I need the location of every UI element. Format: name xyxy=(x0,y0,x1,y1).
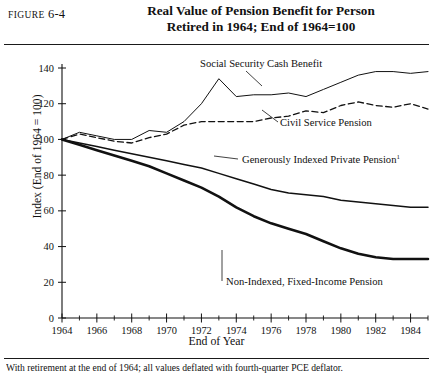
x-tick-label: 1982 xyxy=(365,325,386,336)
x-tick-label: 1964 xyxy=(52,325,74,336)
x-tick-label: 1974 xyxy=(226,325,248,336)
x-tick-label: 1972 xyxy=(191,325,212,336)
y-tick-label: 140 xyxy=(38,63,54,74)
annotation-leader-2 xyxy=(214,156,238,159)
series-line-2 xyxy=(62,139,428,207)
annotation-leader-1 xyxy=(262,110,278,122)
annotation-leader-0 xyxy=(246,71,262,86)
series-annotation-2: Generously Indexed Private Pension1 xyxy=(242,153,400,165)
y-tick-label: 0 xyxy=(49,313,54,324)
footer-divider xyxy=(4,358,429,359)
x-tick-label: 1968 xyxy=(121,325,142,336)
x-tick-label: 1978 xyxy=(296,325,317,336)
x-tick-label: 1966 xyxy=(86,325,107,336)
x-tick-label: 1984 xyxy=(400,325,422,336)
y-tick-label: 80 xyxy=(44,170,54,181)
series-annotation-0: Social Security Cash Benefit xyxy=(200,58,322,69)
figure-footnote: With retirement at the end of 1964; all … xyxy=(6,362,430,374)
series-annotation-3: Non-Indexed, Fixed-Income Pension xyxy=(226,276,384,287)
series-line-1 xyxy=(62,102,428,143)
y-tick-label: 120 xyxy=(38,98,54,109)
series-line-0 xyxy=(62,72,428,140)
line-chart: 0204060801001201401964196619681970197219… xyxy=(0,0,433,375)
x-tick-label: 1970 xyxy=(156,325,177,336)
y-tick-label: 40 xyxy=(44,241,54,252)
x-tick-label: 1980 xyxy=(330,325,351,336)
y-tick-label: 20 xyxy=(44,277,54,288)
x-tick-label: 1976 xyxy=(261,325,282,336)
series-annotation-1: Civil Service Pension xyxy=(280,117,373,128)
y-tick-label: 60 xyxy=(44,205,54,216)
figure-page: Figure 6-4 Real Value of Pension Benefit… xyxy=(0,0,433,375)
y-tick-label: 100 xyxy=(38,134,54,145)
